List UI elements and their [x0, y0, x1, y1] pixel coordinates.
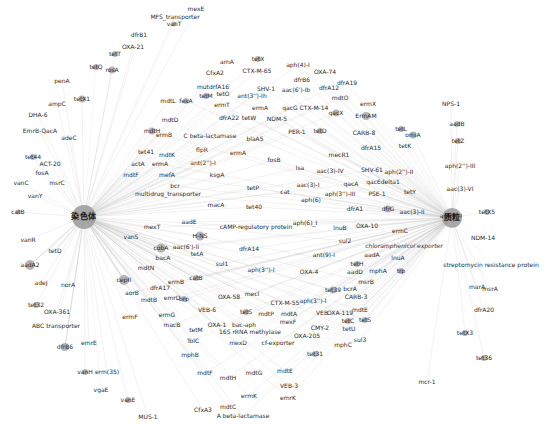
node-label[interactable]: vanR: [20, 237, 35, 243]
node-label[interactable]: vanT: [167, 21, 182, 27]
node-label[interactable]: ksgA: [210, 172, 225, 178]
node-label[interactable]: tetH: [351, 261, 364, 267]
node-label[interactable]: CTX-M-65: [243, 68, 272, 74]
node-label[interactable]: erm(35): [95, 369, 119, 375]
node-label[interactable]: ermK: [241, 393, 257, 399]
node-label[interactable]: cAMP-regulatory protein: [220, 224, 293, 230]
node-label[interactable]: C beta-lactamase: [184, 133, 237, 139]
node-label[interactable]: SHV-61: [361, 167, 383, 173]
node-label[interactable]: multidrug_transporter: [135, 191, 201, 197]
node-label[interactable]: adeC: [61, 135, 76, 141]
node-label[interactable]: mdtG: [246, 370, 263, 376]
network-graph-canvas[interactable]: mexEMFS_transportervanTdfrB1OXA-21tetTte…: [0, 0, 553, 434]
node-label[interactable]: mphA: [369, 268, 387, 274]
node-label[interactable]: ermA: [230, 150, 246, 156]
node-label[interactable]: OXA-4: [300, 269, 318, 275]
node-label[interactable]: TolC: [187, 338, 199, 344]
node-label[interactable]: ampC: [48, 101, 66, 107]
node-label[interactable]: brp: [179, 296, 189, 302]
node-label[interactable]: tetX3: [457, 330, 473, 336]
node-label[interactable]: mdtE: [352, 307, 368, 313]
node-label[interactable]: lsa: [296, 165, 304, 171]
node-label[interactable]: OXA-119: [327, 310, 353, 316]
node-label[interactable]: msrC: [49, 180, 65, 186]
node-label[interactable]: mdtO: [332, 95, 349, 101]
node-label[interactable]: tetY: [404, 189, 416, 195]
node-label[interactable]: chloramphenicol exporter: [365, 243, 442, 249]
node-label[interactable]: lnuB: [333, 225, 346, 231]
node-label[interactable]: NDM-14: [471, 235, 495, 241]
node-label[interactable]: ABC transporter: [32, 323, 80, 329]
node-label[interactable]: trp: [397, 268, 406, 274]
node-label[interactable]: tet41: [138, 149, 154, 155]
node-label[interactable]: OXA-205: [294, 333, 320, 339]
node-label[interactable]: CfxA3: [194, 407, 212, 413]
hub-label-plasmid[interactable]: 质粒: [444, 214, 461, 222]
node-label[interactable]: dfrA1: [347, 206, 363, 212]
node-label[interactable]: penA: [54, 78, 69, 84]
node-label[interactable]: msrA: [482, 286, 498, 292]
node-label[interactable]: aadA2: [20, 262, 39, 268]
node-label[interactable]: ermA: [152, 161, 168, 167]
node-label[interactable]: aph(6): [301, 197, 321, 203]
node-label[interactable]: vanE: [121, 397, 136, 403]
node-label[interactable]: mdtL: [160, 98, 175, 104]
node-label[interactable]: blaA5: [246, 136, 263, 142]
node-label[interactable]: qacA: [344, 181, 359, 187]
node-label[interactable]: tet32: [28, 302, 44, 308]
node-label[interactable]: mdtD: [162, 117, 179, 123]
node-label[interactable]: fexA: [179, 98, 192, 104]
node-label[interactable]: CTX-M-55: [271, 300, 300, 306]
node-label[interactable]: mdtA: [281, 311, 297, 317]
node-label[interactable]: cobA: [154, 245, 169, 251]
node-label[interactable]: A beta-lactamase: [217, 413, 270, 419]
node-label[interactable]: aac(3)-I: [296, 182, 319, 188]
node-label[interactable]: aph(2'')-II: [385, 169, 414, 175]
node-label[interactable]: tetD: [313, 128, 326, 134]
node-label[interactable]: aac(6')-Ib: [282, 87, 311, 93]
node-label[interactable]: ant(2'')-I: [190, 160, 216, 166]
node-label[interactable]: dfrA12: [319, 85, 339, 91]
node-label[interactable]: VEB-3: [280, 383, 298, 389]
node-label[interactable]: ermC: [392, 228, 408, 234]
node-label[interactable]: aac(3)-VI: [447, 186, 474, 192]
node-label[interactable]: aac(3)-II: [400, 209, 425, 215]
node-label[interactable]: ant(9)-I: [313, 252, 335, 258]
hub-label-chromosome[interactable]: 染色体: [71, 213, 97, 221]
node-label[interactable]: rosA: [105, 67, 118, 73]
node-label[interactable]: ermB: [168, 279, 184, 285]
node-label[interactable]: DHA-6: [28, 112, 47, 118]
node-label[interactable]: msrB: [358, 279, 374, 285]
node-label[interactable]: mdtP: [258, 311, 274, 317]
node-label[interactable]: tetX5: [479, 209, 495, 215]
node-label[interactable]: ant(3'')-Ih: [237, 93, 266, 99]
node-label[interactable]: lnuA: [391, 255, 404, 261]
node-label[interactable]: aadA: [364, 252, 379, 258]
node-label[interactable]: sul1: [216, 261, 228, 267]
node-label[interactable]: aph(2'')-III: [445, 163, 476, 169]
node-label[interactable]: CTX-M-14: [300, 105, 329, 111]
node-label[interactable]: tetX: [252, 56, 265, 62]
node-label[interactable]: omiA: [405, 132, 420, 138]
node-label[interactable]: mphC: [334, 342, 352, 348]
node-label[interactable]: arnA: [220, 59, 234, 65]
node-label[interactable]: OXA-58: [218, 294, 240, 300]
node-label[interactable]: mdtN: [138, 265, 155, 271]
node-label[interactable]: ermX: [360, 101, 376, 107]
node-label[interactable]: mphB: [181, 352, 199, 358]
node-label[interactable]: CMY-2: [311, 325, 329, 331]
node-label[interactable]: tetS: [240, 309, 252, 315]
node-label[interactable]: ermF: [122, 314, 137, 320]
node-label[interactable]: VEB-6: [198, 307, 216, 313]
node-label[interactable]: aorB: [125, 290, 139, 296]
node-label[interactable]: tetM: [199, 93, 213, 99]
node-label[interactable]: tetT: [109, 51, 121, 57]
node-label[interactable]: adeJ: [35, 280, 48, 286]
node-label[interactable]: aph(6)_I: [293, 220, 318, 226]
node-label[interactable]: emrD: [164, 295, 181, 301]
node-label[interactable]: ErmAM: [355, 113, 376, 119]
node-label[interactable]: CfxA2: [206, 70, 224, 76]
node-label[interactable]: bcrA: [343, 286, 357, 292]
node-label[interactable]: vanS: [124, 234, 139, 240]
node-label[interactable]: ermB: [156, 132, 172, 138]
